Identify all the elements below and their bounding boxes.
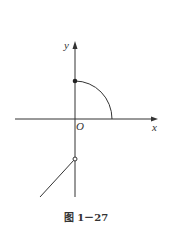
filled-point bbox=[73, 79, 78, 84]
function-graph: y O x bbox=[0, 0, 172, 237]
y-axis-arrow-icon bbox=[73, 41, 78, 49]
x-axis-label: x bbox=[151, 121, 157, 133]
y-axis-label: y bbox=[63, 39, 69, 51]
origin-label: O bbox=[76, 120, 84, 132]
open-point bbox=[73, 157, 77, 161]
quarter-arc bbox=[75, 81, 112, 119]
figure-caption: 图 1－27 bbox=[0, 209, 172, 224]
ray-segment bbox=[40, 160, 74, 197]
